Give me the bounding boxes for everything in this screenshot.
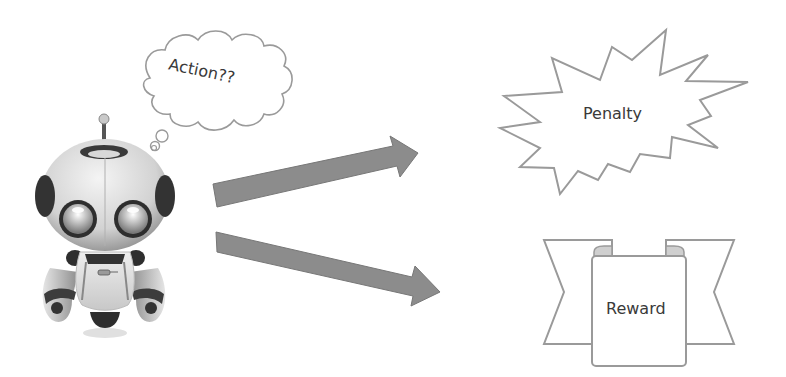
- diagram-canvas: Action??: [0, 0, 786, 377]
- penalty-label: Penalty: [583, 104, 642, 123]
- thought-bubble: Action??: [144, 31, 292, 151]
- reward-banner: Reward: [544, 240, 734, 366]
- penalty-burst: Penalty: [500, 30, 748, 194]
- arrow-to-reward: [216, 232, 440, 306]
- reward-label: Reward: [606, 299, 666, 318]
- thought-dot-large: [156, 130, 168, 142]
- arrow-to-penalty: [213, 136, 418, 207]
